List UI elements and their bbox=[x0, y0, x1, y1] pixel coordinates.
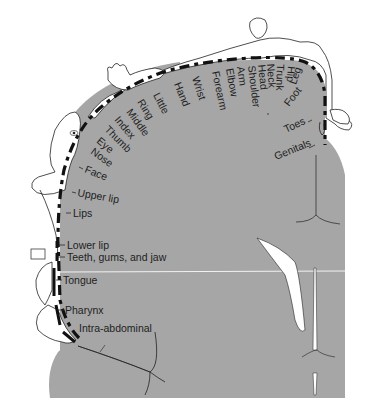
septum bbox=[313, 268, 317, 350]
label-lips: Lips bbox=[73, 207, 92, 219]
jaw-icon bbox=[31, 249, 45, 259]
label-lower-lip: Lower lip bbox=[67, 239, 109, 251]
homunculus-diagram: Genitals Toes Foot Leg Hip Trunk Neck He… bbox=[0, 0, 366, 413]
label-pharynx: Pharynx bbox=[65, 304, 104, 316]
label-teeth-gums-jaw: Teeth, gums, and jaw bbox=[67, 251, 167, 263]
homunculus-tongue bbox=[36, 262, 52, 305]
label-tongue: Tongue bbox=[63, 274, 98, 286]
homunculus-head bbox=[250, 18, 268, 38]
label-intra-abdominal: Intra-abdominal bbox=[79, 322, 152, 334]
